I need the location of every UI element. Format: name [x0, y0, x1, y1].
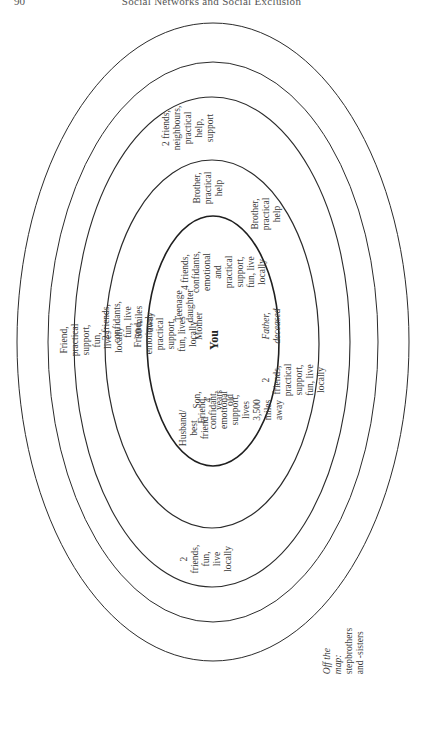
- off-map-prefix: Off the map:: [322, 648, 343, 674]
- off-map-text: stepbrothers and -sisters: [344, 628, 365, 674]
- book-page: 90 Social Networks and Social Exclusion …: [0, 0, 423, 736]
